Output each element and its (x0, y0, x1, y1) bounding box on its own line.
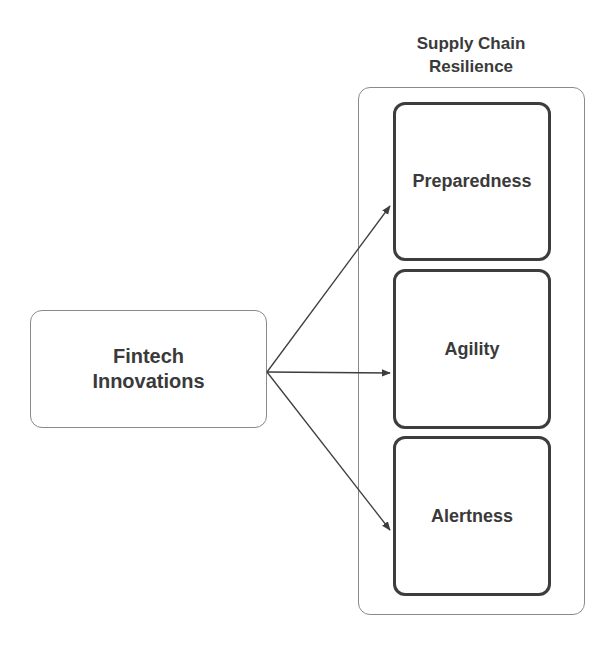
edge-to-agility (267, 372, 390, 373)
edge-to-alertness (267, 372, 390, 530)
edges-layer (0, 0, 614, 647)
edge-to-preparedness (267, 206, 390, 372)
